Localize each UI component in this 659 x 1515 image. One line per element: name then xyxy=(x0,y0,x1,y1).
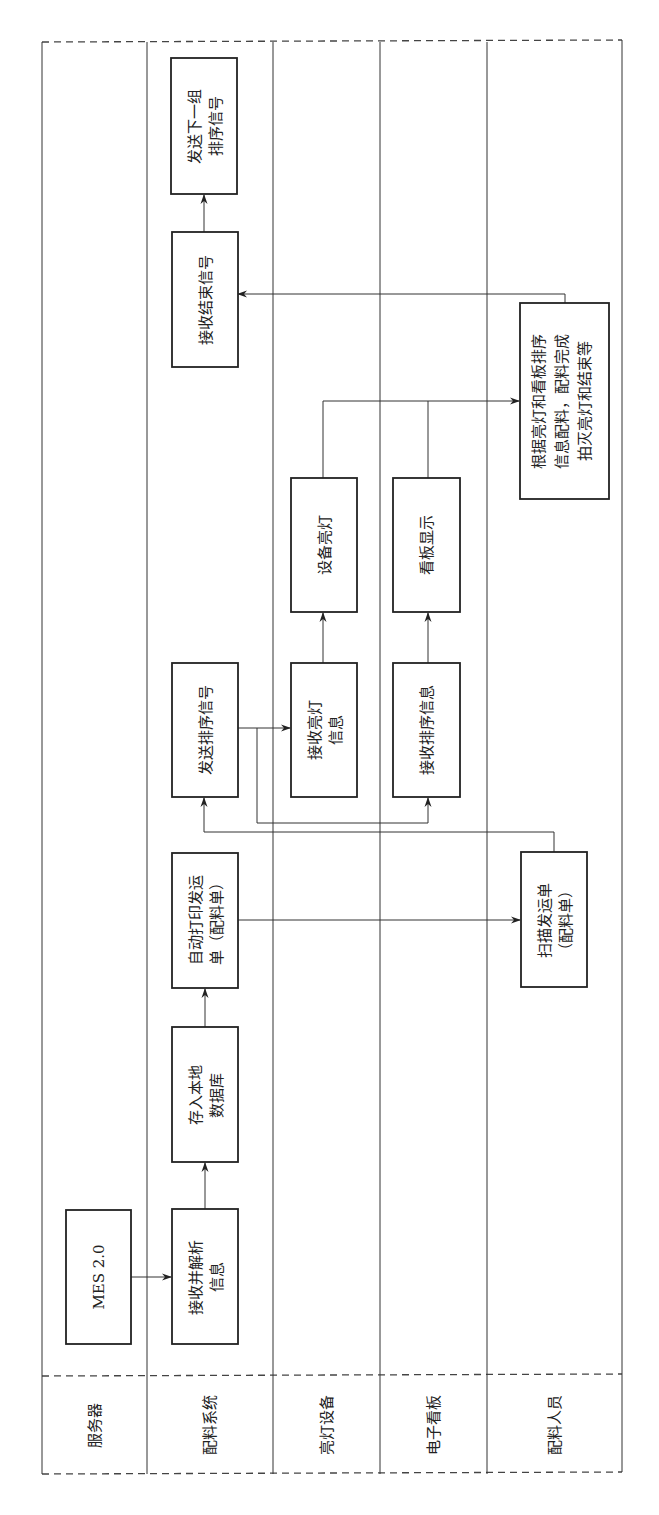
lane-header-material-system: 配料系统 xyxy=(201,1395,219,1455)
node-label: 扫描发运单 xyxy=(536,883,554,958)
node-label: 单（配料单） xyxy=(208,875,226,965)
node-label: 自动打印发运 xyxy=(187,875,205,965)
lane-label: 亮灯设备 xyxy=(318,1395,336,1455)
node-store-db: 存入本地 数据库 xyxy=(172,1027,238,1162)
node-label: 信息配料，配料完成 xyxy=(553,334,571,469)
node-scan-slip: 扫描发运单 （配料单） xyxy=(521,852,587,987)
lane-label: 配料系统 xyxy=(201,1395,219,1455)
node-send-sort: 发送排序信号 xyxy=(172,663,238,797)
node-label: 发送下一组 xyxy=(186,89,204,164)
node-receive-parse: 接收并解析 信息 xyxy=(172,1209,238,1344)
node-label: 看板显示 xyxy=(418,515,436,575)
lane-label: 配料人员 xyxy=(546,1395,564,1455)
node-label: 数据库 xyxy=(208,1073,226,1118)
node-label: 排序信号 xyxy=(207,96,225,156)
node-label: 信息 xyxy=(208,1262,226,1292)
node-label: 接收结束信号 xyxy=(197,255,215,345)
node-pick-by-light: 根据亮灯和看板排序 信息配料，配料完成 拍灭亮灯和结束等 xyxy=(520,303,609,499)
node-label: 信息 xyxy=(327,715,345,745)
node-auto-print: 自动打印发运 单（配料单） xyxy=(172,853,238,988)
node-receive-sort: 接收排序信息 xyxy=(393,663,460,797)
node-label: 设备亮灯 xyxy=(316,515,334,575)
node-label: （配料单） xyxy=(557,883,575,958)
node-label: 接收并解析 xyxy=(187,1240,205,1315)
node-label: 根据亮灯和看板排序 xyxy=(530,334,548,469)
lane-header-server: 服务器 xyxy=(86,1403,104,1448)
lane-header-e-board: 电子看板 xyxy=(425,1395,443,1455)
node-receive-light: 接收亮灯 信息 xyxy=(291,663,357,797)
node-device-light: 设备亮灯 xyxy=(291,478,357,612)
lane-header-light-device: 亮灯设备 xyxy=(318,1395,336,1455)
node-label: 发送排序信号 xyxy=(197,685,215,775)
node-send-next: 发送下一组 排序信号 xyxy=(171,58,237,194)
node-label: 接收排序信息 xyxy=(418,685,436,775)
lane-label: 电子看板 xyxy=(425,1395,443,1455)
node-label: 接收亮灯 xyxy=(306,700,324,760)
node-label: MES 2.0 xyxy=(90,1244,108,1309)
node-board-display: 看板显示 xyxy=(393,478,460,612)
node-mes: MES 2.0 xyxy=(66,1210,131,1344)
lane-header-operator: 配料人员 xyxy=(546,1395,564,1455)
node-label: 存入本地 xyxy=(187,1065,205,1125)
node-receive-end: 接收结束信号 xyxy=(172,232,238,367)
node-label: 拍灭亮灯和结束等 xyxy=(576,341,594,461)
swimlane-diagram: 服务器 配料系统 亮灯设备 电子看板 配料人员 MES 2.0 接收并解析 信息 xyxy=(0,0,659,1515)
lane-label: 服务器 xyxy=(86,1403,104,1448)
